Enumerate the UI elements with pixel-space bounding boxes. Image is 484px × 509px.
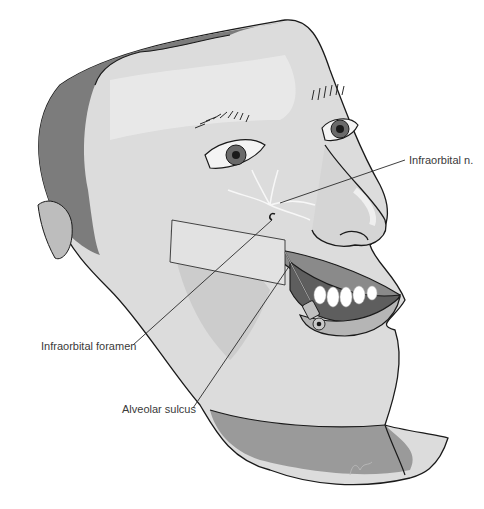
label-infraorbital-foramen: Infraorbital foramen xyxy=(41,340,136,352)
label-infraorbital-n: Infraorbital n. xyxy=(409,154,473,166)
label-alveolar-sulcus: Alveolar sulcus xyxy=(122,403,196,415)
face-illustration xyxy=(0,0,484,509)
